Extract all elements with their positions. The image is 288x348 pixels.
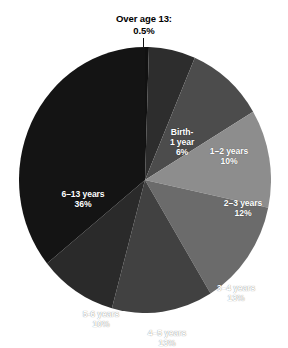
slice-value-2-3-years: 12% — [210, 208, 276, 218]
slice-label-2-3-years-text: 2–3 years — [210, 198, 276, 208]
slice-value-4-5-years: 13% — [134, 338, 200, 348]
slice-label-2-3-years: 2–3 years 12% — [210, 198, 276, 218]
slice-label-1-2-years: 1–2 years 10% — [196, 146, 262, 166]
callout-label-title: Over age 13: — [0, 13, 288, 25]
callout-label-value: 0.5% — [0, 25, 288, 37]
slice-label-3-4-years-text: 3–4 years — [203, 283, 269, 293]
callout-leader-line — [143, 38, 144, 47]
slice-label-6-13-years: 6–13 years 36% — [47, 189, 119, 209]
slice-label-5-6-years-text: 5-6 years — [70, 309, 132, 319]
slice-value-5-6-years: 10% — [70, 319, 132, 329]
slice-label-4-5-years-text: 4–5 years — [134, 328, 200, 338]
slice-value-6-13-years: 36% — [47, 199, 119, 209]
slice-label-4-5-years: 4–5 years 13% — [134, 328, 200, 348]
slice-label-3-4-years: 3–4 years 13% — [203, 283, 269, 303]
slice-label-1-2-years-text: 1–2 years — [196, 146, 262, 156]
slice-value-3-4-years: 13% — [203, 293, 269, 303]
slice-value-1-2-years: 10% — [196, 156, 262, 166]
slice-label-6-13-years-text: 6–13 years — [47, 189, 119, 199]
slice-label-5-6-years: 5-6 years 10% — [70, 309, 132, 329]
slice-label-birth-line-1: Birth- — [160, 127, 204, 137]
callout-label-over-age-13: Over age 13: 0.5% — [0, 13, 288, 36]
pie-slices — [19, 47, 271, 313]
pie-chart: Birth- 1 year 6% 1–2 years 10% 2–3 years… — [19, 47, 271, 313]
pie-chart-svg — [19, 47, 271, 313]
